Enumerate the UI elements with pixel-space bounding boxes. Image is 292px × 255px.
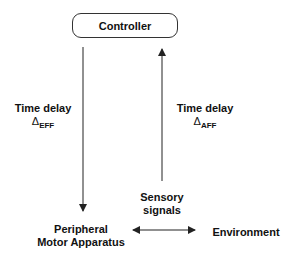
efferent-delay-text: Time delay bbox=[10, 102, 76, 115]
afferent-delay-symbol: ΔAFF bbox=[172, 115, 238, 132]
environment-label: Environment bbox=[212, 226, 279, 238]
peripheral-node: Peripheral Motor Apparatus bbox=[30, 223, 132, 249]
sensory-signals-label: Sensory signals bbox=[130, 191, 194, 217]
sensory-line1: Sensory bbox=[130, 191, 194, 204]
environment-node: Environment bbox=[206, 226, 286, 239]
efferent-delay-label: Time delay ΔEFF bbox=[10, 102, 76, 132]
sensory-line2: signals bbox=[130, 204, 194, 217]
afferent-delay-text: Time delay bbox=[172, 102, 238, 115]
efferent-delay-symbol: ΔEFF bbox=[10, 115, 76, 132]
controller-node: Controller bbox=[72, 13, 178, 38]
controller-label: Controller bbox=[99, 20, 152, 32]
peripheral-line1: Peripheral bbox=[30, 223, 132, 236]
afferent-delay-label: Time delay ΔAFF bbox=[172, 102, 238, 132]
peripheral-line2: Motor Apparatus bbox=[30, 236, 132, 249]
